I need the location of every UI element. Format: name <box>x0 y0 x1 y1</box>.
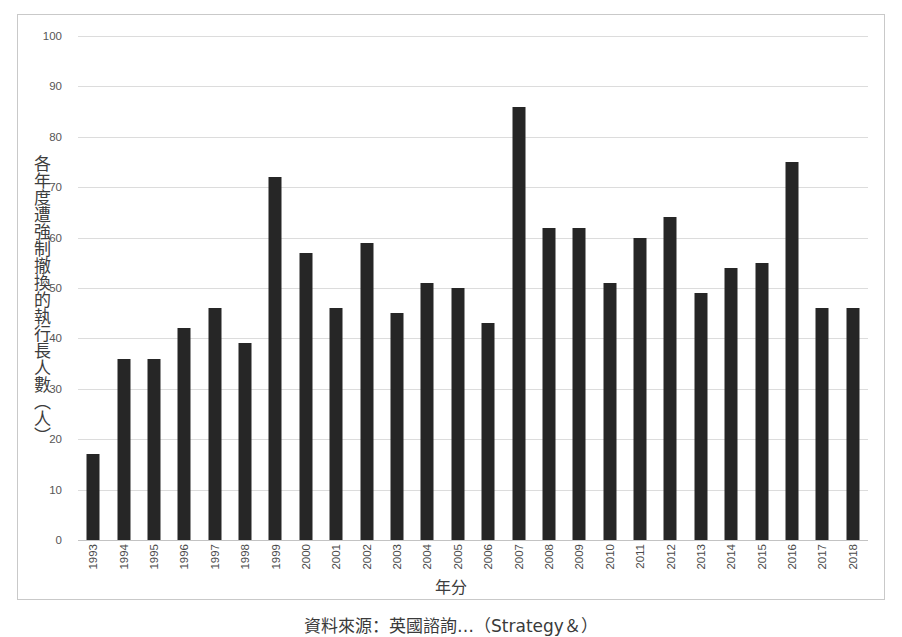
bar-1993 <box>87 454 100 540</box>
bar-slot <box>655 36 685 540</box>
bar-2006 <box>482 323 495 540</box>
bar-slot <box>139 36 169 540</box>
x-tick-2002: 2002 <box>361 544 373 570</box>
bar-2003 <box>391 313 404 540</box>
x-axis-title: 年分 <box>0 574 902 598</box>
x-tick-2015: 2015 <box>756 544 768 570</box>
bar-1995 <box>147 359 160 540</box>
bar-slot <box>260 36 290 540</box>
bar-1998 <box>239 343 252 540</box>
bar-slot <box>838 36 868 540</box>
bar-2012 <box>664 217 677 540</box>
bar-2010 <box>603 283 616 540</box>
x-tick-1996: 1996 <box>178 544 190 570</box>
bar-slot <box>200 36 230 540</box>
bar-slot <box>534 36 564 540</box>
x-tick-2012: 2012 <box>665 544 677 570</box>
x-tick-1998: 1998 <box>239 544 251 570</box>
bar-2009 <box>573 228 586 540</box>
x-tick-1995: 1995 <box>148 544 160 570</box>
x-tick-1997: 1997 <box>209 544 221 570</box>
bar-slot <box>777 36 807 540</box>
bar-slot <box>351 36 381 540</box>
bar-2007 <box>512 107 525 540</box>
y-tick-30: 30 <box>22 383 62 395</box>
bar-slot <box>807 36 837 540</box>
x-tick-2005: 2005 <box>452 544 464 570</box>
bar-slot <box>595 36 625 540</box>
bar-slot <box>291 36 321 540</box>
bar-slot <box>382 36 412 540</box>
x-tick-2006: 2006 <box>482 544 494 570</box>
bar-slot <box>686 36 716 540</box>
bar-slot <box>412 36 442 540</box>
bar-slot <box>564 36 594 540</box>
x-tick-2011: 2011 <box>634 544 646 569</box>
bar-2000 <box>299 253 312 540</box>
x-tick-2001: 2001 <box>330 544 342 570</box>
x-tick-2007: 2007 <box>513 544 525 570</box>
bar-slot <box>473 36 503 540</box>
bar-slot <box>78 36 108 540</box>
bar-slot <box>169 36 199 540</box>
bar-2005 <box>451 288 464 540</box>
x-tick-2010: 2010 <box>604 544 616 570</box>
bar-1996 <box>178 328 191 540</box>
bar-2014 <box>725 268 738 540</box>
x-tick-2014: 2014 <box>725 544 737 570</box>
y-tick-0: 0 <box>22 534 62 546</box>
bar-series <box>78 36 868 540</box>
bar-2015 <box>755 263 768 540</box>
y-tick-50: 50 <box>22 282 62 294</box>
y-tick-60: 60 <box>22 232 62 244</box>
x-tick-2008: 2008 <box>543 544 555 570</box>
y-tick-10: 10 <box>22 484 62 496</box>
bar-1997 <box>208 308 221 540</box>
bar-2004 <box>421 283 434 540</box>
bar-2017 <box>816 308 829 540</box>
bar-2011 <box>634 238 647 540</box>
bar-1999 <box>269 177 282 540</box>
figure-caption: 資料來源：英國諮詢…（Strategy＆） <box>0 612 902 637</box>
y-tick-20: 20 <box>22 433 62 445</box>
bar-slot <box>746 36 776 540</box>
x-tick-2013: 2013 <box>695 544 707 570</box>
bar-slot <box>108 36 138 540</box>
x-tick-2017: 2017 <box>816 544 828 570</box>
y-tick-100: 100 <box>22 30 62 42</box>
bar-2008 <box>542 228 555 540</box>
x-tick-2018: 2018 <box>847 544 859 570</box>
bar-2016 <box>786 162 799 540</box>
bar-2013 <box>694 293 707 540</box>
bar-2002 <box>360 243 373 540</box>
y-tick-70: 70 <box>22 181 62 193</box>
x-tick-2016: 2016 <box>786 544 798 570</box>
y-tick-80: 80 <box>22 131 62 143</box>
y-tick-90: 90 <box>22 80 62 92</box>
bar-slot <box>230 36 260 540</box>
y-axis-tick-labels: 0102030405060708090100 <box>30 36 70 540</box>
bar-slot <box>443 36 473 540</box>
y-tick-40: 40 <box>22 332 62 344</box>
bar-2018 <box>846 308 859 540</box>
x-tick-1999: 1999 <box>270 544 282 570</box>
bar-slot <box>625 36 655 540</box>
bar-1994 <box>117 359 130 540</box>
bar-slot <box>503 36 533 540</box>
x-tick-1994: 1994 <box>118 544 130 570</box>
x-tick-2004: 2004 <box>421 544 433 570</box>
bar-2001 <box>330 308 343 540</box>
bar-slot <box>321 36 351 540</box>
bar-slot <box>716 36 746 540</box>
gridline-0 <box>78 540 868 541</box>
x-tick-2009: 2009 <box>573 544 585 570</box>
x-tick-2003: 2003 <box>391 544 403 570</box>
x-tick-2000: 2000 <box>300 544 312 570</box>
x-tick-1993: 1993 <box>87 544 99 570</box>
